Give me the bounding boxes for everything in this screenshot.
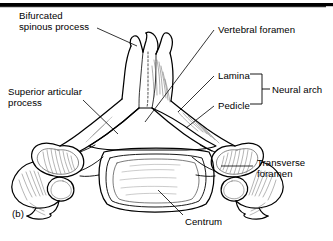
spinous-shading	[152, 60, 170, 102]
label-pedicle: Pedicle	[218, 100, 250, 111]
vertebra-figure	[0, 0, 333, 241]
leader-bifurcated-spinous-process	[97, 28, 137, 46]
label-bifurcated-spinous-process: Bifurcated spinous process	[19, 10, 89, 32]
leader-superior-articular-process	[83, 100, 118, 134]
label-transverse-foramen: Transverse foramen	[257, 157, 305, 179]
neural-arch-bracket	[250, 74, 270, 104]
spinous-process	[122, 32, 173, 108]
top-divider-rule	[0, 3, 333, 6]
left-articular-transverse-complex	[12, 143, 103, 219]
vertebra-drawing	[12, 32, 283, 219]
lamina-shading	[178, 112, 219, 143]
label-lamina: Lamina	[218, 70, 250, 81]
left-facet-hatching	[43, 149, 75, 174]
label-centrum: Centrum	[185, 216, 222, 227]
label-vertebral-foramen: Vertebral foramen	[218, 24, 295, 35]
centrum	[99, 148, 214, 212]
label-superior-articular-process: Superior articular process	[8, 86, 82, 108]
right-facet-hatching	[220, 149, 252, 174]
label-neural-arch: Neural arch	[272, 84, 322, 95]
figure-panel-label: (b)	[12, 208, 24, 219]
neural-arch	[60, 99, 235, 151]
top-divider-rule-thin	[0, 6, 326, 7]
leader-lamina	[178, 76, 214, 112]
vertebral-foramen-outline	[89, 108, 216, 150]
